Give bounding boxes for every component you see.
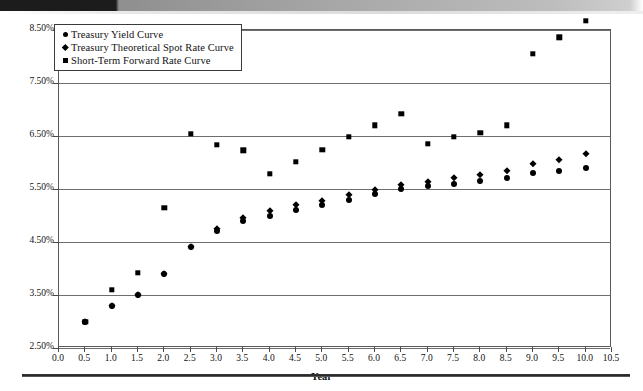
x-axis-tick-label: 6.5 bbox=[394, 353, 406, 363]
data-point-diamond bbox=[160, 270, 168, 278]
x-axis-tick-label: 7.0 bbox=[421, 353, 433, 363]
data-point-square bbox=[109, 287, 114, 292]
gridline bbox=[59, 83, 610, 84]
x-axis-tick bbox=[216, 347, 217, 352]
data-point-square bbox=[320, 147, 325, 152]
data-point-diamond bbox=[503, 167, 511, 175]
data-point-square bbox=[188, 131, 193, 136]
data-point-square bbox=[478, 130, 483, 135]
data-point-square bbox=[241, 148, 246, 153]
legend-item: Treasury Yield Curve bbox=[60, 28, 234, 41]
y-axis-tick bbox=[53, 189, 59, 190]
data-point-square bbox=[372, 123, 377, 128]
x-axis-tick-label: 4.0 bbox=[263, 353, 275, 363]
x-axis-tick bbox=[84, 347, 85, 352]
gridline bbox=[59, 242, 610, 243]
y-axis-tick bbox=[53, 136, 59, 137]
x-axis-tick-label: 1.5 bbox=[131, 353, 143, 363]
x-axis-tick-label: 8.5 bbox=[500, 353, 512, 363]
page-header-bar bbox=[0, 0, 643, 11]
x-axis-tick bbox=[611, 347, 612, 352]
x-axis-tick-label: 3.5 bbox=[236, 353, 248, 363]
circle-icon bbox=[60, 32, 71, 37]
page-footer-rule bbox=[22, 374, 630, 377]
x-axis-tick bbox=[242, 347, 243, 352]
x-axis-tick-label: 7.5 bbox=[447, 353, 459, 363]
x-axis-tick-label: 3.0 bbox=[210, 353, 222, 363]
x-axis-tick bbox=[585, 347, 586, 352]
y-axis-tick-label: 3.50% bbox=[29, 288, 54, 298]
data-point-diamond bbox=[555, 156, 563, 164]
diamond-icon bbox=[60, 45, 71, 50]
data-point-circle bbox=[530, 170, 536, 176]
x-axis-tick-label: 0.5 bbox=[78, 353, 90, 363]
x-axis-tick bbox=[190, 347, 191, 352]
x-axis-tick bbox=[532, 347, 533, 352]
data-point-square bbox=[346, 134, 351, 139]
data-point-square bbox=[162, 205, 167, 210]
data-point-square bbox=[504, 123, 509, 128]
page-header-shadow bbox=[0, 11, 643, 14]
x-axis-tick-label: 1.0 bbox=[105, 353, 117, 363]
y-axis-tick bbox=[53, 295, 59, 296]
square-icon bbox=[60, 58, 71, 63]
data-point-square bbox=[557, 35, 562, 40]
data-point-diamond bbox=[134, 291, 142, 299]
legend-item-label: Short-Term Forward Rate Curve bbox=[71, 55, 211, 66]
x-axis-tick-label: 9.5 bbox=[552, 353, 564, 363]
data-point-square bbox=[425, 141, 430, 146]
x-axis-tick-label: 2.0 bbox=[157, 353, 169, 363]
data-point-square bbox=[583, 18, 588, 23]
x-axis-tick bbox=[163, 347, 164, 352]
x-axis-tick-label: 4.5 bbox=[289, 353, 301, 363]
x-axis-tick bbox=[400, 347, 401, 352]
x-axis-tick bbox=[321, 347, 322, 352]
x-axis-labels: 0.00.51.01.52.02.53.03.54.04.55.05.56.06… bbox=[0, 353, 643, 367]
data-point-circle bbox=[556, 168, 562, 174]
x-axis-tick-label: 8.0 bbox=[473, 353, 485, 363]
x-axis-tick bbox=[269, 347, 270, 352]
x-axis-tick bbox=[137, 347, 138, 352]
legend-item-label: Treasury Theoretical Spot Rate Curve bbox=[71, 42, 234, 53]
x-axis-tick bbox=[111, 347, 112, 352]
gridline bbox=[59, 136, 610, 137]
y-axis-labels: 2.50%3.50%4.50%5.50%6.50%7.50%8.50% bbox=[0, 29, 54, 347]
x-axis-tick bbox=[374, 347, 375, 352]
x-axis-tick-label: 10.0 bbox=[576, 353, 593, 363]
scatter-chart: 2.50%3.50%4.50%5.50%6.50%7.50%8.50% 0.00… bbox=[0, 16, 643, 371]
data-point-circle bbox=[583, 165, 589, 171]
x-axis-tick-label: 6.0 bbox=[368, 353, 380, 363]
x-axis-tick bbox=[506, 347, 507, 352]
data-point-square bbox=[267, 171, 272, 176]
chart-legend: Treasury Yield Curve Treasury Theoretica… bbox=[54, 24, 242, 71]
data-point-square bbox=[399, 111, 404, 116]
x-axis-tick-label: 5.0 bbox=[315, 353, 327, 363]
x-axis-tick bbox=[427, 347, 428, 352]
x-axis-tick bbox=[58, 347, 59, 352]
x-axis-tick-label: 5.5 bbox=[342, 353, 354, 363]
data-point-diamond bbox=[582, 150, 590, 158]
x-axis-tick bbox=[558, 347, 559, 352]
data-point-diamond bbox=[476, 171, 484, 179]
data-point-circle bbox=[504, 175, 510, 181]
y-axis-tick bbox=[53, 242, 59, 243]
gridline bbox=[59, 189, 610, 190]
y-axis-tick-label: 8.50% bbox=[29, 23, 54, 33]
x-axis-tick bbox=[295, 347, 296, 352]
data-point-square bbox=[451, 134, 456, 139]
y-axis-tick-label: 7.50% bbox=[29, 76, 54, 86]
data-point-square bbox=[530, 51, 535, 56]
x-axis-tick-label: 2.5 bbox=[184, 353, 196, 363]
y-axis-tick-label: 4.50% bbox=[29, 235, 54, 245]
plot-area bbox=[58, 29, 611, 347]
y-axis-tick-label: 5.50% bbox=[29, 182, 54, 192]
x-axis-tick bbox=[453, 347, 454, 352]
data-point-square bbox=[135, 270, 140, 275]
x-axis-tick bbox=[348, 347, 349, 352]
data-point-diamond bbox=[529, 160, 537, 168]
legend-item-label: Treasury Yield Curve bbox=[71, 29, 163, 40]
x-axis-tick-label: 10.5 bbox=[603, 353, 620, 363]
data-point-circle bbox=[477, 178, 483, 184]
data-point-square bbox=[293, 159, 298, 164]
data-point-square bbox=[83, 319, 88, 324]
